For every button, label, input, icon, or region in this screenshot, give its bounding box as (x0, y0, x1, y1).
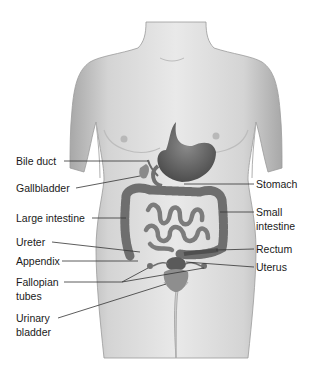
label-bile-duct: Bile duct (16, 154, 56, 168)
nipple-right (213, 133, 220, 140)
label-fallopian-tubes: Fallopian tubes (16, 275, 59, 303)
nipple-left (121, 136, 128, 143)
label-uterus: Uterus (256, 260, 287, 274)
label-urinary-bladder: Urinary bladder (16, 311, 51, 339)
label-small-intestine: Small intestine (256, 205, 295, 233)
label-stomach: Stomach (256, 177, 297, 191)
anatomy-diagram: Bile duct Gallbladder Large intestine Ur… (0, 0, 321, 374)
label-ureter: Ureter (16, 235, 45, 249)
label-appendix: Appendix (16, 254, 60, 268)
label-large-intestine: Large intestine (16, 211, 85, 225)
label-gallbladder: Gallbladder (16, 181, 70, 195)
label-rectum: Rectum (256, 242, 292, 256)
uterus-organ (166, 257, 186, 271)
